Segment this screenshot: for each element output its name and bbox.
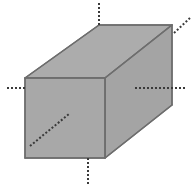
figure-canvas: Rectangular prism with dotted axis lines [0, 0, 194, 188]
prism-diagram: Rectangular prism with dotted axis lines [0, 0, 194, 188]
upper-right-diagonal-axis-line [174, 18, 190, 33]
prism-faces [25, 25, 172, 158]
